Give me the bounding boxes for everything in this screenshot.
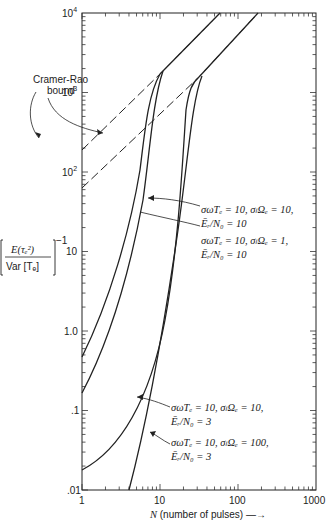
chart: 104 103 102 10 1.0 .1 .01 1 10 100 1000 … (0, 0, 334, 523)
annotation-a-line1: σωTₑ = 10, σₗΩₑ = 10, (201, 204, 293, 215)
y-axis-label: E(τₑ²) Var [Tₑ] −1 (1, 235, 68, 275)
cramer-rao-arrow-1 (30, 92, 39, 138)
y-label-exponent: −1 (56, 235, 68, 246)
x-tick-1000: 1000 (303, 495, 326, 506)
y-tick-10: 10 (66, 246, 78, 257)
annotation-a-line2: Ēᵣ/N₀ = 10 (200, 218, 247, 229)
annotation-b-line1: σωTₑ = 10, σₗΩₑ = 1, (201, 235, 288, 246)
cramer-rao-label-line1: Cramer-Rao (33, 74, 88, 85)
y-tick-10000: 104 (62, 6, 77, 19)
annotation-b-line2: Ēᵣ/N₀ = 10 (200, 249, 247, 260)
annotation-d-line2: Ēᵣ/N₀ = 3 (170, 451, 211, 462)
curve-sigma1-E10 (82, 71, 163, 393)
annotation-c-line1: σωTₑ = 10, σₗΩₑ = 10, (171, 402, 263, 413)
x-axis-labels: 1 10 100 1000 (79, 495, 326, 506)
y-tick-100: 102 (62, 165, 77, 178)
annotation-c-line2: Ēᵣ/N₀ = 3 (170, 416, 211, 427)
y-tick-0.1: .1 (71, 405, 80, 416)
curve-sigma100-E3 (129, 76, 202, 490)
x-tick-10: 10 (154, 495, 166, 506)
cramer-rao-label-line2: bound (47, 85, 75, 96)
x-tick-100: 100 (229, 495, 246, 506)
x-axis-label: N (number of pulses) —→ (149, 509, 266, 520)
cramer-rao-lower-line (82, 13, 258, 188)
x-tick-1: 1 (79, 495, 85, 506)
y-label-denominator: Var [Tₑ] (6, 261, 39, 272)
y-label-numerator: E(τₑ²) (10, 244, 35, 256)
curve-sigma10-E10 (82, 74, 160, 357)
annotation-d-line1: σωTₑ = 10, σₗΩₑ = 100, (171, 437, 269, 448)
cramer-rao-arrow-2 (48, 98, 103, 133)
y-tick-1: 1.0 (64, 326, 78, 337)
